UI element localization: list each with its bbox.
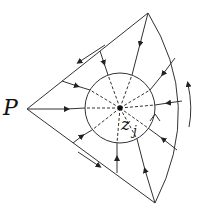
center-point: [117, 105, 122, 110]
sector-outer-arc: [148, 13, 178, 203]
sector-diagram: [0, 0, 203, 210]
circle-chevron-arrow: [150, 114, 160, 121]
orientation-arrow-right: [188, 84, 191, 127]
center-label-z: z: [121, 114, 130, 134]
center-label-subscript: j: [133, 124, 137, 138]
vertex-label-p: P: [3, 95, 18, 120]
